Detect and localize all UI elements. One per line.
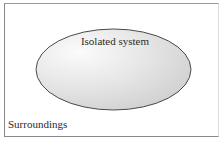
isolated-system-label: Isolated system	[80, 35, 150, 47]
surroundings-label: Surroundings	[8, 118, 67, 130]
